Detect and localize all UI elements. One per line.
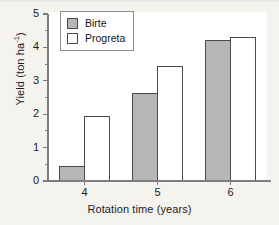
x-axis-title: Rotation time (years)	[0, 203, 279, 215]
x-tick-label: 4	[70, 186, 100, 198]
x-tick-label: 6	[216, 186, 246, 198]
legend-label-progreta: Progreta	[85, 33, 125, 44]
y-tick-label: 2	[23, 108, 39, 119]
y-tick-label: 3	[23, 75, 39, 86]
legend-item-birte: Birte	[67, 16, 125, 31]
figure-container: Yield (ton ha-1) Rotation time (years) 0…	[0, 0, 279, 225]
y-tick-label: 4	[23, 41, 39, 52]
chart-legend: Birte Progreta	[60, 11, 134, 51]
legend-swatch-birte	[67, 18, 78, 29]
y-tick-label: 0	[23, 175, 39, 186]
legend-item-progreta: Progreta	[67, 31, 125, 46]
y-tick-label: 5	[23, 8, 39, 19]
legend-swatch-progreta	[67, 33, 78, 44]
legend-label-birte: Birte	[85, 18, 107, 29]
y-tick-label: 1	[23, 142, 39, 153]
y-axis-title-exponent: -1	[12, 36, 21, 43]
x-tick-label: 5	[143, 186, 173, 198]
y-axis-title-close: )	[14, 32, 26, 36]
